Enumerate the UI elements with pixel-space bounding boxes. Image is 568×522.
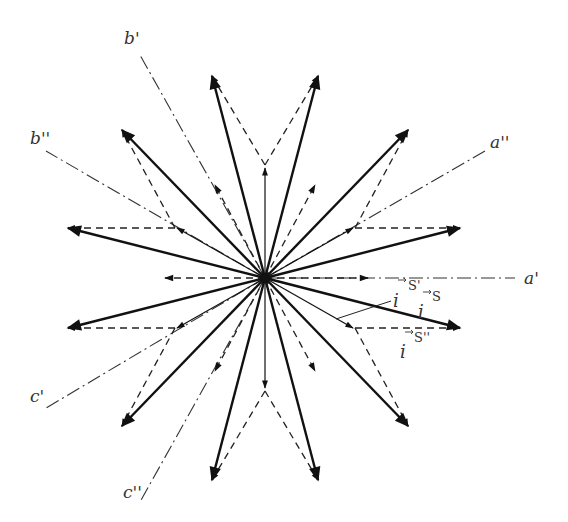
label-b-double-prime: b'' — [30, 128, 50, 148]
resultant-arrow — [265, 130, 408, 278]
label-a-prime: a' — [524, 268, 539, 288]
svg-text:i: i — [393, 290, 399, 311]
label-c-double-prime: c'' — [123, 482, 142, 502]
label-i-s: i S — [418, 289, 441, 322]
label-i-s-double-prime: i S'' — [400, 330, 430, 362]
svg-text:i: i — [400, 341, 406, 362]
axis-c-prime — [46, 278, 265, 408]
resultant-arrow — [265, 278, 318, 480]
resultant-arrow — [122, 130, 265, 278]
phasor-diagram: a' a'' b' b'' c' c'' i S i S' i S'' — [0, 0, 568, 522]
label-c-prime: c' — [30, 386, 44, 406]
vector-labels: i S i S' i S'' — [393, 278, 441, 362]
resultant-arrow — [122, 278, 265, 426]
resultant-arrow — [68, 228, 265, 278]
resultant-arrow — [212, 76, 265, 278]
resultant-arrow — [265, 278, 408, 426]
label-b-prime: b' — [124, 28, 140, 48]
svg-text:i: i — [418, 301, 424, 322]
label-a-double-prime: a'' — [490, 132, 509, 152]
resultant-arrow — [265, 76, 318, 278]
svg-text:S'': S'' — [414, 330, 430, 345]
axis-labels: a' a'' b' b'' c' c'' — [30, 28, 539, 502]
resultant-arrow — [212, 278, 265, 480]
label-i-s-prime: i S' — [393, 278, 420, 311]
resultant-arrow — [265, 278, 460, 328]
svg-text:S: S — [432, 289, 441, 304]
resultant-arrow — [68, 278, 265, 328]
resultant-arrow — [265, 228, 460, 278]
svg-text:S': S' — [408, 278, 420, 293]
origin-point — [260, 273, 270, 283]
